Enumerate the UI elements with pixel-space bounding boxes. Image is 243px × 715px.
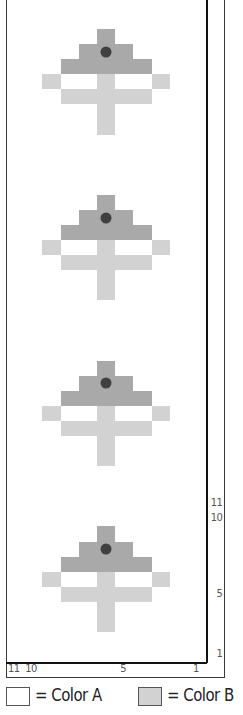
chart-cell-color-a bbox=[61, 300, 80, 316]
chart-cell-color-a bbox=[188, 632, 207, 648]
chart-cell-color-a bbox=[133, 270, 152, 286]
chart-cell-color-b bbox=[115, 255, 134, 271]
chart-cell-color-a bbox=[133, 542, 152, 558]
chart-cell-color-a bbox=[24, 617, 43, 633]
chart-cell-color-a bbox=[6, 346, 25, 362]
chart-cell-color-a bbox=[170, 617, 189, 633]
chart-cell-color-b bbox=[61, 255, 80, 271]
chart-cell-color-a bbox=[24, 285, 43, 301]
chart-cell-color-a bbox=[133, 120, 152, 136]
chart-cell-color-a bbox=[42, 526, 61, 542]
chart-cell-color-a bbox=[188, 255, 207, 271]
chart-cell-color-a bbox=[79, 331, 98, 347]
chart-cell-color-a bbox=[79, 180, 98, 196]
column-label-cell bbox=[42, 662, 61, 678]
chart-cell-color-a bbox=[79, 451, 98, 467]
chart-cell-color-a bbox=[61, 466, 80, 482]
chart-cell-color-a bbox=[152, 617, 171, 633]
chart-cell-color-a bbox=[24, 587, 43, 603]
chart-cell-color-a bbox=[97, 466, 116, 482]
chart-cell-color-a bbox=[6, 587, 25, 603]
chart-cell-color-a bbox=[6, 29, 25, 45]
chart-cell-color-b bbox=[97, 255, 116, 271]
chart-cell-color-a bbox=[152, 300, 171, 316]
chart-cell-color-b bbox=[115, 89, 134, 105]
chart-cell-color-a bbox=[61, 602, 80, 618]
chart-cell-color-a bbox=[170, 572, 189, 588]
chart-cell-color-a bbox=[42, 285, 61, 301]
row-label-cell bbox=[206, 150, 225, 166]
chart-cell-color-a bbox=[97, 496, 116, 512]
chart-cell-color-a bbox=[61, 104, 80, 120]
chart-cell-color-a bbox=[6, 466, 25, 482]
chart-cell-color-a bbox=[79, 526, 98, 542]
chart-cell-color-a bbox=[61, 29, 80, 45]
chart-cell-color-a bbox=[188, 526, 207, 542]
row-label-cell bbox=[206, 526, 225, 542]
chart-cell-color-b-dark bbox=[79, 557, 98, 573]
chart-cell-color-b-dark bbox=[97, 376, 116, 392]
chart-cell-color-a bbox=[79, 150, 98, 166]
chart-cell-color-a bbox=[42, 436, 61, 452]
chart-cell-color-a bbox=[61, 180, 80, 196]
chart-cell-color-a bbox=[188, 165, 207, 181]
chart-cell-color-a bbox=[188, 421, 207, 437]
chart-cell-color-a bbox=[42, 180, 61, 196]
chart-cell-color-a bbox=[170, 44, 189, 60]
chart-cell-color-a bbox=[188, 0, 207, 15]
chart-cell-color-a bbox=[170, 587, 189, 603]
chart-cell-color-a bbox=[24, 557, 43, 573]
chart-cell-color-a bbox=[170, 632, 189, 648]
row-label-cell bbox=[206, 195, 225, 211]
chart-cell-color-a bbox=[152, 331, 171, 347]
chart-cell-color-b-dark bbox=[79, 225, 98, 241]
chart-cell-color-a bbox=[170, 331, 189, 347]
chart-cell-color-a bbox=[170, 300, 189, 316]
chart-cell-color-a bbox=[188, 44, 207, 60]
chart-cell-color-a bbox=[42, 587, 61, 603]
chart-cell-color-a bbox=[133, 331, 152, 347]
chart-cell-color-b bbox=[61, 421, 80, 437]
chart-cell-color-a bbox=[170, 557, 189, 573]
chart-cell-color-a bbox=[170, 135, 189, 151]
chart-cell-color-a bbox=[115, 481, 134, 497]
chart-cell-color-a bbox=[188, 587, 207, 603]
chart-cell-color-a bbox=[152, 0, 171, 15]
chart-cell-color-a bbox=[24, 481, 43, 497]
chart-cell-color-a bbox=[133, 74, 152, 90]
chart-cell-color-b bbox=[79, 421, 98, 437]
chart-cell-color-a bbox=[79, 135, 98, 151]
chart-cell-color-a bbox=[133, 451, 152, 467]
chart-cell-color-b bbox=[115, 421, 134, 437]
chart-cell-color-b bbox=[152, 240, 171, 256]
chart-cell-color-a bbox=[24, 255, 43, 271]
chart-cell-color-a bbox=[152, 391, 171, 407]
chart-cell-color-b bbox=[61, 89, 80, 105]
chart-cell-color-b bbox=[61, 587, 80, 603]
chart-cell-color-a bbox=[6, 240, 25, 256]
row-label-cell bbox=[206, 270, 225, 286]
chart-cell-color-a bbox=[133, 150, 152, 166]
chart-cell-color-a bbox=[61, 451, 80, 467]
chart-cell-color-a bbox=[79, 361, 98, 377]
chart-cell-color-a bbox=[170, 150, 189, 166]
chart-cell-color-a bbox=[115, 361, 134, 377]
chart-cell-color-a bbox=[170, 511, 189, 527]
chart-cell-color-a bbox=[24, 406, 43, 422]
row-label-cell bbox=[206, 44, 225, 60]
row-label-cell bbox=[206, 466, 225, 482]
row-number-label: 5 bbox=[217, 587, 223, 600]
chart-cell-color-a bbox=[42, 602, 61, 618]
chart-cell-color-a bbox=[79, 481, 98, 497]
chart-cell-color-a bbox=[133, 436, 152, 452]
chart-cell-color-a bbox=[152, 14, 171, 30]
chart-cell-color-a bbox=[115, 120, 134, 136]
chart-cell-color-b bbox=[79, 587, 98, 603]
row-label-cell bbox=[206, 376, 225, 392]
chart-cell-color-a bbox=[79, 466, 98, 482]
chart-cell-color-a bbox=[24, 104, 43, 120]
chart-cell-color-a bbox=[79, 104, 98, 120]
chart-cell-color-a bbox=[133, 240, 152, 256]
chart-cell-color-a bbox=[24, 150, 43, 166]
chart-cell-color-a bbox=[97, 481, 116, 497]
